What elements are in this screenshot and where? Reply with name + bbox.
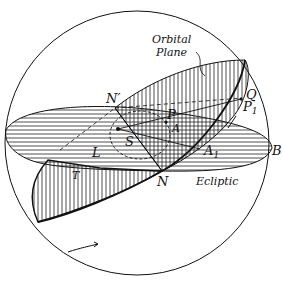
diagram-drawing <box>0 0 283 285</box>
point-a1: A1 <box>204 144 219 160</box>
point-n: N <box>157 175 168 188</box>
point-t: T <box>72 170 79 181</box>
point-p1: P1 <box>243 100 257 116</box>
orbital-plane-label-2: Plane <box>156 47 187 58</box>
ecliptic-label: Ecliptic <box>196 176 238 187</box>
point-s: S <box>125 135 134 148</box>
orbital-plane-diagram: Orbital Plane Ecliptic N′ N P A S L A1 B… <box>0 0 283 285</box>
orbital-plane-label: Orbital <box>152 34 191 45</box>
point-b: B <box>272 144 282 157</box>
point-p: P <box>167 108 176 121</box>
point-n-prime: N′ <box>106 92 120 105</box>
point-a: A <box>172 123 180 134</box>
point-l: L <box>92 146 101 159</box>
